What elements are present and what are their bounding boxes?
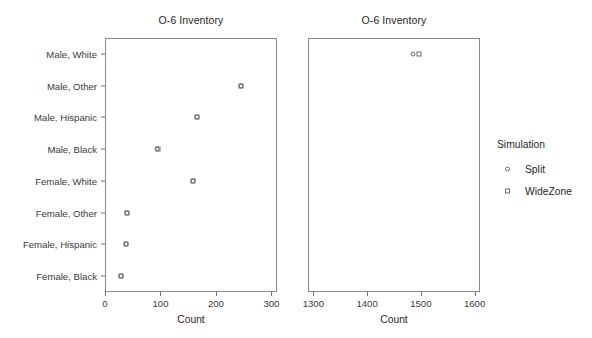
panel-title-0: O-6 Inventory	[101, 14, 281, 26]
ytick-label-1: Male, Other	[0, 80, 97, 91]
ytick-label-6: Female, Hispanic	[0, 239, 97, 250]
ytick-mark-0	[101, 53, 105, 54]
data-point-widezone	[416, 51, 421, 56]
data-point-widezone	[239, 83, 244, 88]
data-point-widezone	[155, 147, 160, 152]
xtick-label-0-0: 0	[102, 298, 107, 309]
ytick-label-4: Female, White	[0, 175, 97, 186]
data-point-widezone	[191, 178, 196, 183]
ytick-mark-2	[101, 117, 105, 118]
plot-area-1	[308, 38, 480, 292]
legend-marker-circle-icon	[505, 167, 510, 172]
ytick-mark-4	[101, 180, 105, 181]
legend-label-1: WideZone	[525, 186, 572, 197]
xtick-mark-1-2	[421, 292, 422, 296]
x-axis-title-0: Count	[177, 314, 204, 325]
xtick-label-0-1: 100	[152, 298, 168, 309]
xtick-mark-0-0	[105, 292, 106, 296]
ytick-label-2: Male, Hispanic	[0, 112, 97, 123]
data-point-widezone	[124, 210, 129, 215]
data-point-split	[411, 51, 416, 56]
xtick-label-1-0: 1300	[303, 298, 324, 309]
legend-marker-square-icon	[505, 189, 510, 194]
ytick-label-7: Female, Black	[0, 271, 97, 282]
xtick-label-1-3: 1600	[464, 298, 485, 309]
plot-area-0	[105, 38, 277, 292]
xtick-mark-0-3	[271, 292, 272, 296]
x-axis-title-1: Count	[380, 314, 407, 325]
data-point-widezone	[123, 242, 128, 247]
ytick-label-0: Male, White	[0, 48, 97, 59]
legend-label-0: Split	[525, 164, 545, 175]
xtick-mark-0-2	[216, 292, 217, 296]
ytick-mark-5	[101, 212, 105, 213]
xtick-mark-1-0	[313, 292, 314, 296]
ytick-mark-1	[101, 85, 105, 86]
ytick-mark-7	[101, 276, 105, 277]
ytick-label-5: Female, Other	[0, 207, 97, 218]
xtick-mark-0-1	[160, 292, 161, 296]
legend-entry-widezone[interactable]: WideZone	[505, 184, 590, 198]
chart-figure: O-6 Inventory0100200300CountMale, WhiteM…	[0, 0, 592, 338]
ytick-mark-6	[101, 244, 105, 245]
data-point-widezone	[118, 274, 123, 279]
xtick-label-0-2: 200	[208, 298, 224, 309]
ytick-label-3: Male, Black	[0, 144, 97, 155]
xtick-label-0-3: 300	[263, 298, 279, 309]
xtick-label-1-2: 1500	[410, 298, 431, 309]
xtick-mark-1-3	[475, 292, 476, 296]
ytick-mark-3	[101, 149, 105, 150]
legend-entry-split[interactable]: Split	[505, 162, 590, 176]
xtick-mark-1-1	[367, 292, 368, 296]
data-point-widezone	[194, 115, 199, 120]
panel-title-1: O-6 Inventory	[304, 14, 484, 26]
legend-title: Simulation	[497, 139, 545, 150]
xtick-label-1-1: 1400	[356, 298, 377, 309]
